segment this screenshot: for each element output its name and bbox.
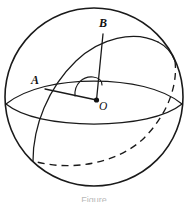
sphere-diagram-canvas [0, 0, 188, 202]
point-label-a: A [31, 74, 39, 86]
radius-segment-oa [45, 89, 97, 100]
sphere-diagram-figure: A B O Figure [0, 0, 188, 202]
equator-front-arc [6, 104, 182, 124]
point-label-o: O [99, 101, 107, 113]
point-label-b: B [99, 17, 107, 29]
sphere-outline-circle [5, 8, 183, 186]
figure-caption: Figure [0, 194, 188, 202]
great-circle-back-dashed-arc [33, 61, 175, 166]
